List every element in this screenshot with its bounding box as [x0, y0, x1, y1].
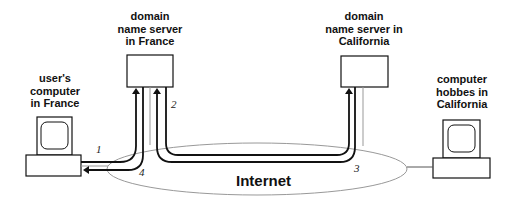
dns-server-california: domain name server in California: [325, 10, 403, 87]
hobbes-label-3: California: [437, 98, 489, 110]
step-4-arrow: [86, 87, 143, 170]
step-1-label: 1: [96, 143, 102, 155]
step-4-label: 4: [139, 166, 145, 178]
user-computer-label-3: in France: [31, 97, 80, 109]
dns-france-label-1: domain: [130, 10, 169, 22]
step-2-label: 2: [171, 98, 177, 110]
computer-icon: [433, 120, 490, 178]
dns-server-france: domain name server in France: [118, 10, 184, 87]
server-box-icon: [127, 55, 173, 87]
dns-california-label-2: name server in: [325, 23, 403, 35]
step-1-arrow: [81, 91, 136, 162]
internet-label: Internet: [236, 172, 291, 189]
hobbes-label-1: computer: [437, 73, 488, 85]
step-2-arrow: [166, 87, 349, 155]
hobbes-label-2: hobbes in: [436, 86, 488, 98]
user-computer-label-2: computer: [30, 85, 81, 97]
dns-california-label-3: California: [339, 35, 391, 47]
dns-france-label-3: in France: [126, 35, 175, 47]
server-box-icon: [341, 56, 388, 87]
user-computer-label-1: user's: [39, 72, 71, 84]
dns-france-label-2: name server: [118, 23, 184, 35]
dns-california-label-1: domain: [344, 10, 383, 22]
hobbes-computer: computer hobbes in California: [407, 73, 490, 178]
user-computer: user's computer in France: [26, 72, 81, 176]
computer-icon: [26, 117, 81, 176]
internet-cloud: Internet: [107, 143, 407, 195]
step-3-label: 3: [353, 162, 360, 174]
dns-diagram: Internet user's computer in France domai…: [0, 0, 517, 200]
step-3-arrow: [157, 87, 355, 162]
